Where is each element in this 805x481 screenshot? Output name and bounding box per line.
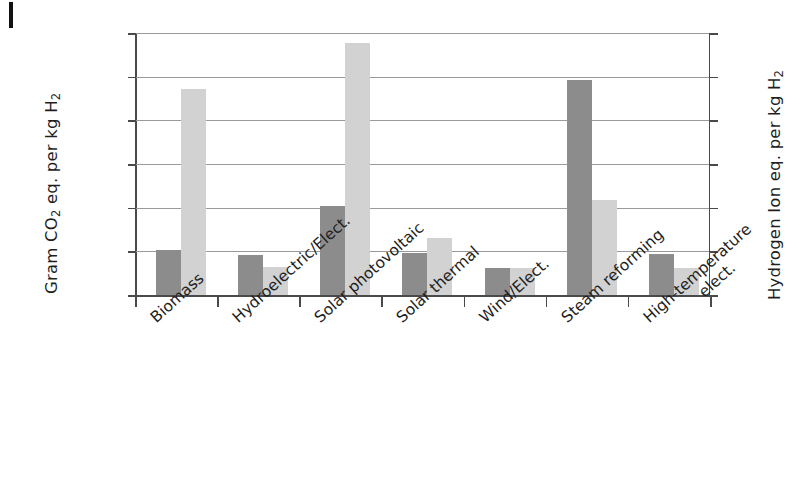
- right-tick-0.8: [709, 120, 718, 122]
- x-tick-2: [299, 296, 301, 307]
- left-tick-7500: [128, 164, 136, 166]
- left-tick-2500: [128, 251, 136, 253]
- x-tick-3: [381, 296, 383, 307]
- gridline-12500: [135, 77, 710, 78]
- x-tick-4: [464, 296, 466, 307]
- right-axis-title: Hydrogen Ion eq. per kg H2: [765, 70, 784, 300]
- left-tick-5000: [128, 208, 136, 210]
- bar-co2-5: [567, 80, 592, 295]
- page-margin-mark: [9, 2, 13, 28]
- right-tick-1.0: [709, 77, 718, 79]
- gridline-7500: [135, 164, 710, 165]
- x-tick-1: [217, 296, 219, 307]
- right-tick-0.6: [709, 164, 718, 166]
- x-tick-0: [135, 296, 137, 307]
- left-tick-12500: [128, 77, 136, 79]
- figure-root: Gram CO2 eq. per kg H2 Hydrogen Ion eq. …: [0, 0, 805, 481]
- gridline-10000: [135, 120, 710, 121]
- x-tick-6: [628, 296, 630, 307]
- left-axis-title: Gram CO2 eq. per kg H2: [42, 93, 61, 294]
- left-tick-10000: [128, 120, 136, 122]
- x-tick-5: [546, 296, 548, 307]
- gridline-15000: [135, 33, 710, 34]
- left-tick-15000: [128, 33, 136, 35]
- gridline-5000: [135, 208, 710, 209]
- right-tick-1.2: [709, 33, 718, 35]
- bar-hion-0: [181, 89, 206, 295]
- right-tick-0.4: [709, 208, 718, 210]
- bar-hion-2: [345, 43, 370, 295]
